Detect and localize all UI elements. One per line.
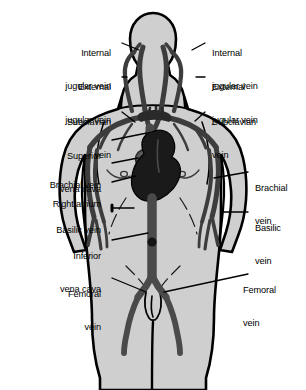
label-line-2: vein [212,150,256,161]
label-line-1: Femoral [68,289,101,300]
label-line-1: Basilic [255,223,281,234]
label-line-1: External [65,82,111,93]
label-line-1: Femoral [243,285,276,296]
leader-internal-jugular-right [192,43,205,50]
label-line-1: Inferior [60,251,101,262]
label-line-2: vein [68,322,101,333]
label-line-1: Brachial [255,183,287,194]
label-line-1: Subclavian [67,117,111,128]
label-line-1: External [212,82,258,93]
venous-system-diagram: Internal jugular vein External jugular v… [0,0,306,390]
label-line-1: Subclavian [212,117,256,128]
label-line-1: Internal [212,48,258,59]
neck-left-contour [121,96,122,107]
label-subclavian-vein-right: Subclavian vein [212,95,256,183]
neck-right-contour [184,96,185,107]
label-femoral-vein-left: Femoral vein [68,267,101,355]
label-line-2: vein [243,318,276,329]
label-femoral-vein-right: Femoral vein [243,263,276,351]
inferior-vena-cava-marker [147,237,156,246]
label-line-1: Internal [65,48,111,59]
leg-gap-path [152,322,153,390]
